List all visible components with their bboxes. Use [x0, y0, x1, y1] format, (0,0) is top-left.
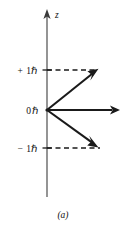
tick-label-plus-one-hbar: + 1ℏ — [18, 66, 38, 76]
z-axis-label: z — [54, 10, 59, 20]
vector-up-shaft — [47, 74, 92, 110]
figure-caption: (a) — [57, 210, 68, 221]
origin-point — [45, 108, 48, 111]
vector-up-arrowhead-icon — [87, 69, 98, 81]
tick-label-zero-hbar: 0ℏ — [26, 106, 38, 116]
vector-down-shaft — [47, 110, 92, 142]
angular-momentum-figure: + 1ℏ 0ℏ − 1ℏ z (a) — [0, 0, 126, 229]
vector-down-arrowhead-icon — [87, 136, 98, 148]
tick-label-minus-one-hbar: − 1ℏ — [18, 144, 38, 154]
vector-diagram: + 1ℏ 0ℏ − 1ℏ z (a) — [0, 0, 126, 229]
